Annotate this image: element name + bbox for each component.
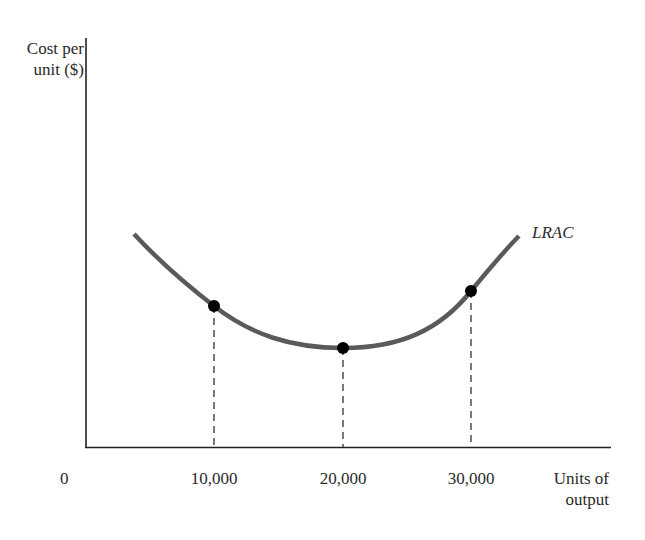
lrac-curve	[134, 234, 519, 348]
lrac-series-label: LRAC	[532, 222, 574, 243]
x-axis-label-line1: Units of	[554, 468, 609, 489]
origin-label: 0	[60, 468, 69, 489]
x-tick-30000: 30,000	[448, 468, 495, 489]
x-tick-10000: 10,000	[191, 468, 238, 489]
x-axis-label: Units of output	[554, 468, 609, 510]
y-axis-label-line1: Cost per	[8, 38, 84, 59]
chart-canvas	[0, 0, 645, 540]
point-10000	[208, 300, 220, 312]
point-30000	[465, 285, 477, 297]
point-20000	[337, 342, 349, 354]
x-axis-label-line2: output	[554, 489, 609, 510]
y-axis-label-line2: unit ($)	[8, 59, 84, 80]
x-tick-20000: 20,000	[320, 468, 367, 489]
y-axis-label: Cost per unit ($)	[8, 38, 84, 80]
